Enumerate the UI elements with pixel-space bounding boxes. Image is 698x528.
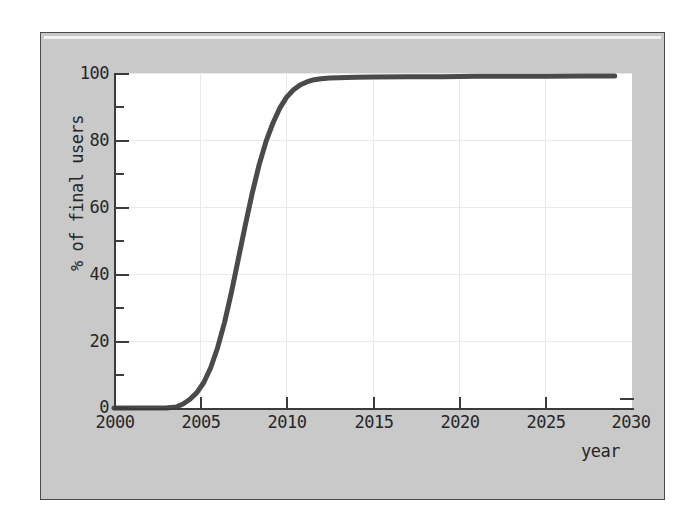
y-tick-20 [116,341,129,343]
y-axis-title: % of final users [67,113,87,273]
x-tick-label-2030: 2030 [612,412,651,432]
x-tick-2015 [373,397,375,408]
plot-area [114,73,632,408]
x-tick-label-2005: 2005 [182,412,221,432]
y-tick-50 [116,240,124,242]
y-tick-10 [116,374,124,376]
y-tick-label-100: 100 [59,63,109,83]
x-axis-line [114,408,634,410]
y-tick-label-20: 20 [59,331,109,351]
x-axis-right-cap [620,398,634,400]
frame-highlight [44,36,661,39]
x-tick-2025 [545,397,547,408]
x-tick-label-2020: 2020 [441,412,480,432]
x-tick-label-2025: 2025 [527,412,566,432]
y-tick-80 [116,140,129,142]
adoption-curve [114,73,632,408]
y-tick-40 [116,274,129,276]
y-tick-100 [116,73,129,75]
x-tick-label-2000: 2000 [96,412,135,432]
y-tick-70 [116,173,124,175]
x-tick-label-2010: 2010 [268,412,307,432]
y-tick-0 [116,407,129,409]
y-tick-90 [116,106,124,108]
x-tick-2010 [286,397,288,408]
y-tick-60 [116,207,129,209]
x-tick-label-2015: 2015 [355,412,394,432]
y-tick-30 [116,307,124,309]
x-tick-2005 [200,397,202,408]
x-axis-title: year [581,441,620,461]
x-tick-2020 [459,397,461,408]
figure-frame: 100 80 60 40 20 0 2000 2005 2010 2015 20… [40,32,665,500]
